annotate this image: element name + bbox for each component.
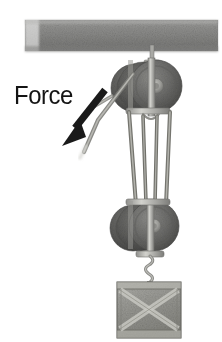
rope-strands (129, 112, 170, 205)
ceiling-beam (25, 19, 218, 52)
lower-pulley-block (110, 199, 179, 257)
upper-sheave-front (130, 60, 182, 112)
pulley-figure: Force (0, 0, 222, 342)
rope-strand-4 (166, 112, 170, 205)
pulley-diagram-canvas (0, 0, 222, 342)
crate-load (117, 282, 181, 338)
rope-strand-1 (129, 112, 136, 205)
force-label: Force (14, 82, 73, 108)
load-hook (146, 256, 153, 285)
rope-strand-3 (155, 116, 157, 203)
rope-strand-2 (143, 116, 146, 203)
